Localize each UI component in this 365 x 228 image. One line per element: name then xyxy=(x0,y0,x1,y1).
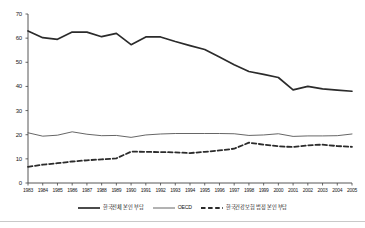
legend-item-1[interactable]: 한국전체 본인 부담 xyxy=(78,204,144,211)
series-line-3 xyxy=(28,143,352,167)
x-axis-tick-label: 1986 xyxy=(67,187,77,193)
chart-axes xyxy=(26,14,353,186)
x-axis-tick-label: 1983 xyxy=(23,187,33,193)
chart-legend: 한국전체 본인 부담OECD한국건강보험 법정 본인 부담 xyxy=(0,204,365,211)
legend-label: OECD xyxy=(178,204,192,211)
legend-line-swatch xyxy=(201,205,223,211)
y-axis-tick-label: 50 xyxy=(6,59,22,65)
x-axis-tick-label: 2002 xyxy=(303,187,313,193)
y-axis-tick-label: 70 xyxy=(6,11,22,17)
x-axis-tick-label: 1988 xyxy=(97,187,107,193)
legend-item-3[interactable]: 한국건강보험 법정 본인 부담 xyxy=(201,204,287,211)
x-axis-tick-label: 2001 xyxy=(288,187,298,193)
y-axis-tick-label: 40 xyxy=(6,83,22,89)
chart-plot-area xyxy=(0,0,365,228)
x-axis-tick-label: 1996 xyxy=(214,187,224,193)
x-axis-tick-label: 2005 xyxy=(347,187,357,193)
bottom-divider xyxy=(0,221,365,222)
x-axis-tick-label: 1984 xyxy=(38,187,48,193)
line-chart: 010203040506070 198319841985198619871988… xyxy=(0,0,365,228)
x-axis-tick-label: 1992 xyxy=(156,187,166,193)
series-line-2 xyxy=(28,132,352,138)
x-axis-tick-label: 2004 xyxy=(332,187,342,193)
legend-item-2[interactable]: OECD xyxy=(153,204,192,211)
x-axis-tick-label: 1989 xyxy=(111,187,121,193)
x-axis-tick-label: 2000 xyxy=(273,187,283,193)
legend-line-swatch xyxy=(78,205,100,211)
x-axis-tick-label: 1999 xyxy=(259,187,269,193)
x-axis-tick-label: 1993 xyxy=(170,187,180,193)
y-axis-tick-label: 10 xyxy=(6,156,22,162)
legend-line-swatch xyxy=(153,205,175,211)
x-axis-tick-label: 1997 xyxy=(229,187,239,193)
legend-label: 한국건강보험 법정 본인 부담 xyxy=(226,204,287,211)
x-axis-tick-label: 1991 xyxy=(141,187,151,193)
x-axis-tick-label: 1990 xyxy=(126,187,136,193)
x-axis-tick-label: 2003 xyxy=(318,187,328,193)
x-axis-tick-label: 1994 xyxy=(185,187,195,193)
chart-series-group xyxy=(28,31,352,167)
x-axis-tick-label: 1987 xyxy=(82,187,92,193)
x-axis-tick-label: 1995 xyxy=(200,187,210,193)
legend-label: 한국전체 본인 부담 xyxy=(103,204,144,211)
y-axis-tick-label: 60 xyxy=(6,35,22,41)
series-line-1 xyxy=(28,31,352,91)
y-axis-tick-label: 0 xyxy=(6,180,22,186)
y-axis-tick-label: 30 xyxy=(6,108,22,114)
y-axis-tick-label: 20 xyxy=(6,132,22,138)
x-axis-tick-label: 1998 xyxy=(244,187,254,193)
x-axis-tick-label: 1985 xyxy=(52,187,62,193)
